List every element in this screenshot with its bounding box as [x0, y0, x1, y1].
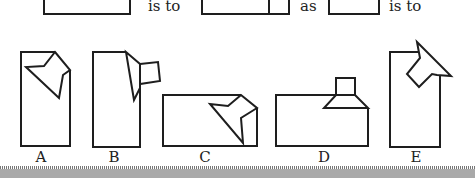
option-label-e[interactable]: E: [411, 150, 422, 165]
option-c-figure: [163, 95, 257, 146]
connector-is-to-2: is to: [389, 0, 421, 14]
option-a-figure: [21, 52, 70, 146]
figures-canvas: [0, 0, 475, 178]
option-label-d[interactable]: D: [318, 150, 330, 165]
option-label-b[interactable]: B: [108, 150, 119, 165]
option-label-c[interactable]: C: [199, 150, 210, 165]
option-label-a[interactable]: A: [36, 150, 47, 165]
connector-is-to-1: is to: [148, 0, 180, 14]
question-shape-2: [202, 0, 289, 14]
option-e-figure: [390, 42, 451, 147]
question-shape-1: [44, 0, 130, 14]
option-d-figure: [276, 78, 368, 146]
connector-as: as: [300, 0, 317, 14]
question-shape-3: [329, 0, 379, 14]
bottom-gray-strip: [0, 169, 475, 178]
option-b-figure: [93, 52, 160, 147]
